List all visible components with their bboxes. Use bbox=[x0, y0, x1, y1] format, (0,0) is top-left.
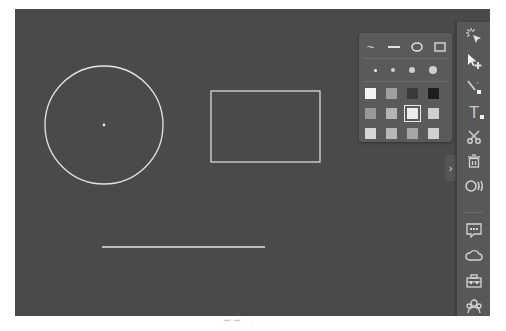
color-swatch[interactable] bbox=[407, 88, 418, 99]
chat-icon bbox=[465, 221, 483, 239]
sidebar-separator bbox=[465, 212, 483, 213]
panel-divider bbox=[363, 81, 448, 82]
sidebar-item-cut[interactable] bbox=[457, 126, 490, 148]
color-swatch[interactable] bbox=[386, 88, 397, 99]
color-swatch[interactable] bbox=[365, 128, 376, 139]
audio-icon bbox=[464, 178, 484, 194]
sidebar-item-chat[interactable] bbox=[457, 219, 490, 241]
line-tool[interactable] bbox=[385, 39, 403, 55]
color-swatch[interactable] bbox=[428, 108, 439, 119]
text-icon: T bbox=[469, 104, 478, 122]
pen-icon bbox=[465, 78, 483, 96]
shape-tool-row: ~ bbox=[359, 39, 452, 55]
color-palette bbox=[365, 88, 439, 139]
draw-options-panel: ~ bbox=[359, 33, 452, 142]
sidebar-item-cloud[interactable] bbox=[457, 244, 490, 266]
cloud-icon bbox=[465, 247, 483, 263]
stroke-size-4[interactable] bbox=[429, 66, 437, 74]
sidebar-item-toolbox[interactable] bbox=[457, 270, 490, 292]
sidebar-item-draw[interactable] bbox=[457, 76, 490, 98]
trash-icon bbox=[466, 153, 482, 169]
sidebar-item-laser-pointer[interactable] bbox=[457, 25, 490, 47]
circle-center-dot bbox=[103, 124, 106, 127]
scissors-icon bbox=[466, 129, 482, 145]
sidebar-item-text[interactable]: T bbox=[457, 102, 490, 124]
color-swatch[interactable] bbox=[428, 88, 439, 99]
text-glyph: T bbox=[469, 104, 478, 122]
collapse-toolbar-button[interactable]: › bbox=[445, 155, 456, 181]
color-swatch[interactable] bbox=[386, 128, 397, 139]
toolbox-icon bbox=[465, 273, 483, 289]
color-swatch[interactable] bbox=[407, 128, 418, 139]
color-swatch-selected[interactable] bbox=[407, 108, 418, 119]
chevron-right-icon: › bbox=[449, 162, 453, 174]
rectangle-tool[interactable] bbox=[431, 39, 449, 55]
caption-text: ▔▔ · · · bbox=[0, 320, 506, 329]
screen: ~ bbox=[0, 0, 506, 331]
ellipse-icon bbox=[411, 42, 423, 52]
rectangle-icon bbox=[434, 42, 446, 52]
color-swatch[interactable] bbox=[428, 128, 439, 139]
participants-icon bbox=[465, 298, 483, 314]
stroke-size-row bbox=[359, 63, 452, 77]
stroke-size-1[interactable] bbox=[374, 69, 377, 72]
ellipse-tool[interactable] bbox=[408, 39, 426, 55]
whiteboard-canvas[interactable]: ~ bbox=[15, 9, 490, 316]
tilde-icon: ~ bbox=[367, 42, 375, 52]
stroke-size-3[interactable] bbox=[409, 67, 415, 73]
sidebar-item-delete[interactable] bbox=[457, 150, 490, 172]
laser-pointer-icon bbox=[465, 27, 483, 45]
sidebar-item-audio[interactable] bbox=[457, 175, 490, 197]
sidebar-item-select[interactable] bbox=[457, 50, 490, 72]
freehand-tool[interactable]: ~ bbox=[362, 39, 380, 55]
rectangle-shape[interactable] bbox=[211, 91, 320, 162]
tool-sidebar: T bbox=[456, 22, 490, 316]
sidebar-item-participants[interactable] bbox=[457, 295, 490, 316]
color-swatch[interactable] bbox=[365, 108, 376, 119]
color-swatch[interactable] bbox=[386, 108, 397, 119]
panel-divider bbox=[363, 58, 448, 59]
select-move-icon bbox=[465, 52, 483, 70]
color-swatch[interactable] bbox=[365, 88, 376, 99]
stroke-size-2[interactable] bbox=[391, 68, 395, 72]
line-icon bbox=[388, 45, 400, 49]
